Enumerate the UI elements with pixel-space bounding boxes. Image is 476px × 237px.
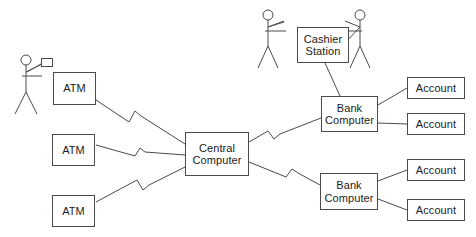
link-atm2-central <box>96 145 185 156</box>
link-bank2-account4 <box>378 199 407 210</box>
node-label: Bank Computer <box>325 102 374 127</box>
node-label: Central Computer <box>192 142 241 167</box>
link-atm1-central <box>96 100 185 144</box>
node-label: Account <box>416 82 456 95</box>
atm-card-icon <box>41 58 53 67</box>
node-atm-1[interactable]: ATM <box>53 72 96 105</box>
link-atmcustomer-card <box>27 64 41 72</box>
node-label: Account <box>416 204 456 217</box>
link-bank1-account2 <box>378 123 407 124</box>
node-bank-computer-2[interactable]: Bank Computer <box>320 173 378 210</box>
node-label: ATM <box>62 205 85 218</box>
link-cashierclerk-station <box>268 22 284 27</box>
node-account-4[interactable]: Account <box>407 199 465 221</box>
node-label: Cashier Station <box>304 33 343 58</box>
link-bank2-account3 <box>378 170 407 181</box>
node-atm-2[interactable]: ATM <box>52 134 95 166</box>
node-cashier-station[interactable]: Cashier Station <box>297 27 349 63</box>
node-label: Bank Computer <box>324 179 373 204</box>
node-central-computer[interactable]: Central Computer <box>185 132 249 176</box>
node-label: Account <box>416 164 456 177</box>
node-label: ATM <box>63 82 86 95</box>
node-atm-3[interactable]: ATM <box>52 195 95 227</box>
link-atm3-central <box>96 167 185 202</box>
node-label: ATM <box>62 144 85 157</box>
link-bank1-account1 <box>378 88 407 105</box>
node-account-1[interactable]: Account <box>407 77 465 99</box>
link-central-bank2 <box>249 162 320 185</box>
node-account-3[interactable]: Account <box>407 159 465 181</box>
atm-network-diagram: ATM ATM ATM Central Computer Cashier Sta… <box>0 0 476 237</box>
node-bank-computer-1[interactable]: Bank Computer <box>321 96 378 132</box>
node-label: Account <box>416 118 456 131</box>
link-central-bank1 <box>249 118 321 142</box>
link-cashier-bank1 <box>325 63 340 96</box>
node-account-2[interactable]: Account <box>407 113 465 135</box>
